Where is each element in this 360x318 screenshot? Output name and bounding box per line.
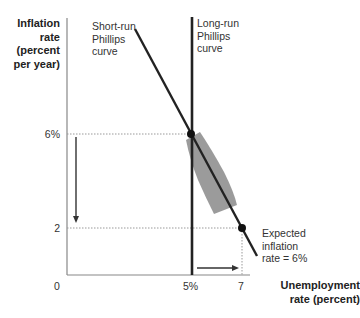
point-7-2 [238,224,246,232]
x-tick-5: 5% [183,280,198,293]
expected-label-line: inflation [262,240,307,253]
x-axis-label-line: rate (percent) [250,293,360,307]
srpc-label-line: Short-run [92,20,136,33]
down-arrow-head [73,216,79,223]
x-axis-label: Unemployment rate (percent) [250,279,360,306]
srpc-label-line: curve [92,45,136,58]
lrpc-label: Long-run Phillips curve [197,17,239,55]
lrpc-label-line: curve [197,42,239,55]
x-axis-label-line: Unemployment [250,279,360,293]
lrpc-label-line: Phillips [197,30,239,43]
y-axis-label-line: rate [0,31,60,45]
expected-inflation-label: Expected inflation rate = 6% [262,227,307,265]
x-tick-7: 7 [238,280,244,293]
y-tick-2: 2 [36,222,60,235]
short-run-phillips-curve [135,29,257,256]
right-arrow-head [232,265,239,271]
y-axis-label-line: (percent [0,44,60,58]
expected-label-line: Expected [262,227,307,240]
srpc-label: Short-run Phillips curve [92,20,136,58]
y-axis-label-line: Inflation [0,17,60,31]
y-tick-6: 6% [36,128,60,141]
origin-label: 0 [54,280,60,293]
srpc-label-line: Phillips [92,33,136,46]
lrpc-label-line: Long-run [197,17,239,30]
expected-label-line: rate = 6% [262,252,307,265]
point-5-6 [187,130,195,138]
y-axis-label: Inflation rate (percent per year) [0,17,60,71]
y-axis-label-line: per year) [0,58,60,72]
